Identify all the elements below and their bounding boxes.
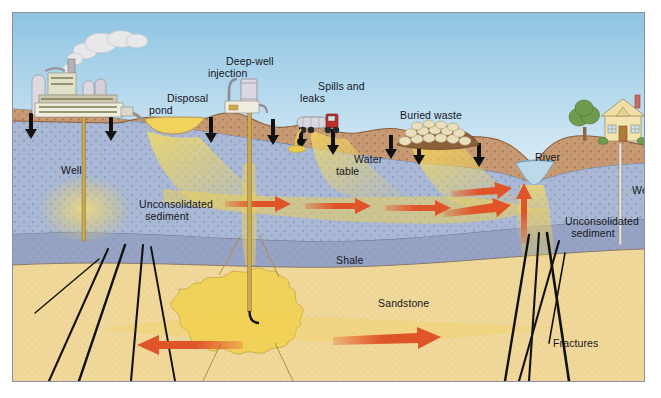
truck-tank <box>297 117 327 128</box>
chimney <box>635 95 640 108</box>
label-deep-well-injection: Deep-well injection <box>208 42 274 92</box>
label-buried-waste: Buried waste <box>382 96 462 134</box>
label-water-table: Water table <box>336 140 382 190</box>
label-unconsolidated-sediment-left: Unconsolidated sediment <box>121 185 213 235</box>
tree-trunk <box>583 127 586 141</box>
label-unconsolidated-sediment-right: Unconsolidated sediment <box>547 202 639 252</box>
label-disposal-pond: Disposal pond <box>149 79 208 129</box>
diagram-stage: Disposal pond Deep-well injection Spills… <box>0 0 661 398</box>
label-well-left: Well <box>43 151 82 189</box>
house-door <box>619 126 627 141</box>
leak-puddle <box>288 146 306 153</box>
label-shale: Shale <box>318 241 363 279</box>
label-spills-and-leaks: Spills and leaks <box>300 67 365 117</box>
factory-outfall-box <box>121 107 133 116</box>
label-river: River <box>517 138 560 176</box>
well-left-casing <box>82 117 85 241</box>
label-sandstone: Sandstone <box>360 284 429 322</box>
factory-hall-lower <box>35 103 123 117</box>
injection-control-panel <box>229 105 238 110</box>
label-fractures: Fractures <box>535 324 598 362</box>
diagram-frame: Disposal pond Deep-well injection Spills… <box>12 12 645 382</box>
